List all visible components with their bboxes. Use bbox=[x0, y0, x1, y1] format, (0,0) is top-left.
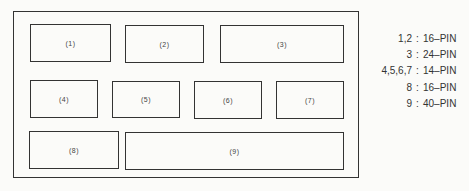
legend-key: 8 bbox=[368, 80, 412, 96]
legend-key: 1,2 bbox=[368, 31, 412, 47]
chip-label: (4) bbox=[59, 96, 69, 103]
legend-key: 9 bbox=[368, 96, 412, 112]
chip-label: (3) bbox=[277, 41, 287, 48]
chip-6: (6) bbox=[194, 81, 262, 119]
pin-legend: 1,2 : 16–PIN 3 : 24–PIN 4,5,6,7 : 14–PIN… bbox=[368, 31, 469, 112]
legend-row: 3 : 24–PIN bbox=[368, 47, 469, 63]
chip-label: (5) bbox=[141, 96, 151, 103]
chip-5: (5) bbox=[112, 81, 180, 118]
legend-value: 24–PIN bbox=[423, 47, 456, 63]
legend-separator: : bbox=[412, 63, 423, 79]
legend-value: 16–PIN bbox=[423, 31, 456, 47]
legend-separator: : bbox=[412, 96, 423, 112]
chip-label: (8) bbox=[69, 147, 79, 154]
chip-4: (4) bbox=[30, 80, 98, 118]
chip-1: (1) bbox=[30, 24, 111, 62]
chip-label: (1) bbox=[65, 40, 75, 47]
chip-2: (2) bbox=[125, 25, 204, 63]
legend-separator: : bbox=[412, 80, 423, 96]
legend-row: 4,5,6,7 : 14–PIN bbox=[368, 63, 469, 79]
chip-9: (9) bbox=[125, 132, 344, 170]
legend-value: 40–PIN bbox=[423, 96, 456, 112]
legend-row: 1,2 : 16–PIN bbox=[368, 31, 469, 47]
chip-7: (7) bbox=[276, 81, 344, 119]
legend-key: 3 bbox=[368, 47, 412, 63]
legend-row: 8 : 16–PIN bbox=[368, 80, 469, 96]
chip-label: (6) bbox=[223, 97, 233, 104]
chip-8: (8) bbox=[29, 131, 119, 169]
legend-row: 9 : 40–PIN bbox=[368, 96, 469, 112]
legend-value: 16–PIN bbox=[423, 80, 456, 96]
legend-separator: : bbox=[412, 47, 423, 63]
legend-key: 4,5,6,7 bbox=[368, 63, 412, 79]
chip-3: (3) bbox=[220, 25, 344, 63]
legend-separator: : bbox=[412, 31, 423, 47]
chip-label: (2) bbox=[159, 41, 169, 48]
chip-label: (7) bbox=[305, 97, 315, 104]
legend-value: 14–PIN bbox=[423, 63, 456, 79]
chip-label: (9) bbox=[229, 148, 239, 155]
